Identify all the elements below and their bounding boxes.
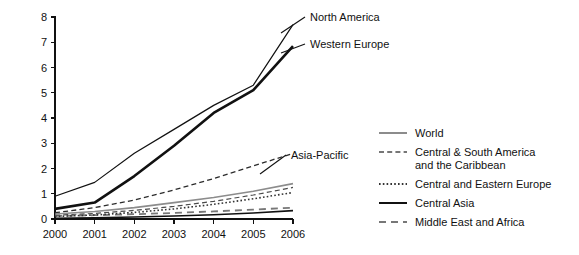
x-tick-label: 2003 xyxy=(162,228,186,240)
legend-label-central-asia: Central Asia xyxy=(415,197,475,209)
series-line-north-america xyxy=(55,25,293,197)
x-axis-group: 2000200120022003200420052006 xyxy=(43,219,305,240)
chart-legend: WorldCentral & South Americaand the Cari… xyxy=(379,127,551,228)
legend-label-world: World xyxy=(415,127,444,139)
annotation-leader-line xyxy=(260,155,286,174)
annotation-label-asia-pacific: Asia-Pacific xyxy=(291,149,349,161)
x-axis-tick-labels: 2000200120022003200420052006 xyxy=(43,228,305,240)
x-tick-label: 2004 xyxy=(201,228,225,240)
x-tick-label: 2005 xyxy=(241,228,265,240)
line-chart-canvas: 012345678 2000200120022003200420052006 N… xyxy=(0,0,579,255)
legend-label-central-south-america-and-the-caribbean: Central & South America xyxy=(415,146,536,158)
legend-label-central-and-eastern-europe: Central and Eastern Europe xyxy=(415,178,551,190)
x-tick-label: 2000 xyxy=(43,228,67,240)
y-tick-label: 4 xyxy=(41,112,47,124)
y-tick-label: 0 xyxy=(41,213,47,225)
annotation-leader-line xyxy=(281,17,305,33)
y-tick-label: 6 xyxy=(41,62,47,74)
y-tick-label: 5 xyxy=(41,87,47,99)
data-series-group xyxy=(55,25,293,219)
y-axis-tick-marks xyxy=(51,17,55,219)
annotation-label-western-europe: Western Europe xyxy=(310,38,389,50)
y-tick-label: 2 xyxy=(41,163,47,175)
chart-figure: 012345678 2000200120022003200420052006 N… xyxy=(0,0,579,255)
annotation-leader-line xyxy=(281,44,305,53)
y-axis-tick-labels: 012345678 xyxy=(41,11,47,225)
y-axis-group: 012345678 xyxy=(41,11,55,225)
legend-label-middle-east-and-africa: Middle East and Africa xyxy=(415,216,525,228)
y-tick-label: 7 xyxy=(41,36,47,48)
plot-annotations-group: North AmericaWestern EuropeAsia-Pacific xyxy=(260,11,389,174)
x-tick-label: 2006 xyxy=(281,228,305,240)
y-tick-label: 3 xyxy=(41,137,47,149)
y-tick-label: 1 xyxy=(41,188,47,200)
annotation-label-north-america: North America xyxy=(310,11,381,23)
series-line-western-europe xyxy=(55,46,293,209)
x-axis-tick-marks xyxy=(55,219,293,224)
legend-label-central-south-america-and-the-caribbean-line2: and the Caribbean xyxy=(415,159,506,171)
x-tick-label: 2001 xyxy=(82,228,106,240)
y-tick-label: 8 xyxy=(41,11,47,23)
x-tick-label: 2002 xyxy=(122,228,146,240)
